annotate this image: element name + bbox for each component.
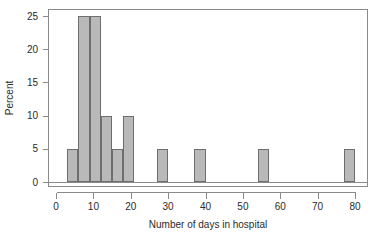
y-tick-label: 20 [27,44,39,55]
histogram-bar [344,149,354,181]
x-tick-label: 40 [200,201,212,212]
histogram-bar [68,149,78,181]
histogram-bar [258,149,268,181]
histogram-bar [113,149,123,181]
x-tick-label: 30 [163,201,175,212]
y-tick-label: 15 [27,77,39,88]
histogram-bar [195,149,205,181]
x-tick-label: 70 [312,201,324,212]
x-axis: 01020304050607080 [53,193,361,213]
y-tick-label: 10 [27,110,39,121]
x-tick-label: 60 [275,201,287,212]
histogram-bar [124,116,134,181]
y-axis-title: Percent [4,81,15,116]
y-tick-label: 25 [27,11,39,22]
x-tick-label: 50 [237,201,249,212]
y-tick-label: 0 [32,177,38,188]
bars-layer [49,17,368,183]
y-tick-label: 5 [32,143,38,154]
x-tick-label: 80 [349,201,361,212]
x-tick-label: 10 [88,201,100,212]
histogram-chart: 0510152025 01020304050607080 Number of d… [0,0,378,236]
x-axis-title: Number of days in hospital [149,219,267,230]
histogram-bar [79,17,89,182]
x-tick-label: 20 [125,201,137,212]
histogram-bar [157,149,167,181]
histogram-bar [90,17,100,182]
x-tick-label: 0 [53,201,59,212]
histogram-svg: 0510152025 01020304050607080 Number of d… [0,0,378,236]
y-axis: 0510152025 [27,11,49,188]
histogram-bar [101,116,111,181]
